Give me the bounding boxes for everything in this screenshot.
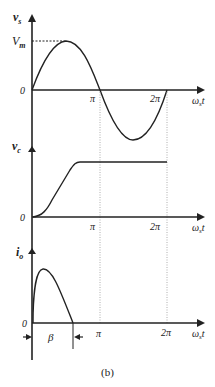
vc-tick-pi: π: [90, 221, 96, 232]
svg-text:vs: vs: [13, 10, 21, 26]
vs-plot: vs Vm 0 π 2π ωst: [12, 10, 205, 140]
vs-origin: 0: [20, 85, 25, 96]
io-current-pulse: [33, 269, 73, 323]
waveform-diagram: vs Vm 0 π 2π ωst vc 0 π 2π ωst io 0 π 2π…: [0, 0, 215, 387]
vc-xlabel: ω: [192, 222, 199, 233]
vc-tick-2pi: 2π: [150, 221, 161, 232]
vs-xlabel: ω: [192, 95, 199, 106]
io-xlabel: ω: [192, 328, 199, 339]
vc-plot: vc 0 π 2π ωst: [12, 139, 205, 235]
vc-axis-arrow-icon: [28, 146, 36, 152]
vc-origin: 0: [20, 212, 25, 223]
io-tick-2pi: 2π: [161, 327, 172, 338]
svg-text:ωst: ωst: [192, 95, 205, 108]
svg-text:ωst: ωst: [192, 222, 205, 235]
svg-text:io: io: [16, 245, 23, 261]
io-origin: 0: [22, 318, 27, 329]
beta-label: β: [47, 331, 54, 343]
svg-text:vc: vc: [12, 139, 21, 155]
vs-tick-2pi: 2π: [150, 93, 161, 104]
figure-caption: (b): [101, 366, 114, 379]
vs-tick-pi: π: [90, 93, 96, 104]
io-axis-arrow-icon: [28, 248, 36, 254]
io-plot: io 0 π 2π ωst β: [16, 245, 205, 349]
io-tick-pi: π: [96, 328, 102, 339]
svg-text:ωst: ωst: [192, 328, 205, 341]
svg-text:Vm: Vm: [12, 34, 26, 50]
